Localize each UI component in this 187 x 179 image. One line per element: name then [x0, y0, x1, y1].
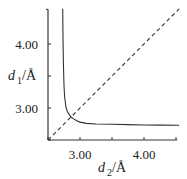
x-axis-label-unit: /Å [112, 160, 127, 175]
diagonal-dashed-line [48, 9, 179, 140]
x-tick-label: 3.00 [69, 147, 92, 162]
x-tick-label: 4.00 [133, 147, 156, 162]
plot-area [48, 9, 179, 140]
y-axis-label-unit: /Å [22, 68, 37, 83]
y-axis-label: d1/Å [8, 68, 37, 86]
y-tick-label: 4.00 [15, 37, 38, 52]
y-tick-label: 3.00 [15, 101, 38, 116]
chart: d1/Å d2/Å 3.004.003.004.00 [0, 0, 187, 179]
x-axis-label: d2/Å [98, 160, 127, 178]
x-axis-label-var: d [98, 160, 106, 175]
labels: d1/Å d2/Å 3.004.003.004.00 [8, 37, 155, 178]
y-axis-label-var: d [8, 68, 16, 83]
axes [46, 9, 177, 140]
